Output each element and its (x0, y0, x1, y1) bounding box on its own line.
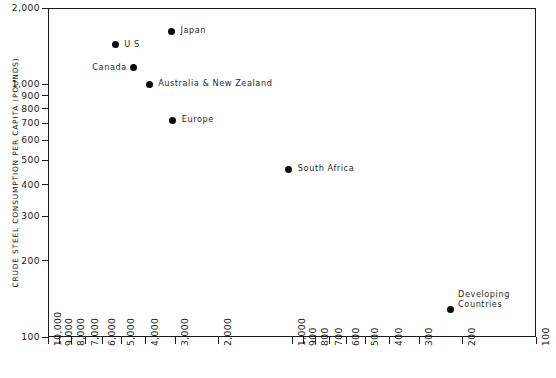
y-axis-tick-mark (42, 216, 49, 217)
x-axis-tick-mark (315, 337, 316, 344)
x-axis-tick-mark (419, 337, 420, 344)
x-axis-tick-label: 400 (393, 327, 404, 346)
data-point-label: Japan (180, 26, 206, 36)
x-axis-tick-label: 7,000 (89, 318, 100, 346)
data-point-label: Developing Countries (458, 291, 510, 310)
x-axis-tick-mark (59, 337, 60, 344)
x-axis-tick-mark (48, 337, 49, 344)
x-axis-tick-label: 5,000 (125, 318, 136, 346)
x-axis-tick-mark (218, 337, 219, 344)
y-axis-tick-label: 400 (0, 179, 40, 190)
x-axis-tick-mark (303, 337, 304, 344)
x-axis-tick-label: 3,000 (179, 318, 190, 346)
x-axis-tick-mark (346, 337, 347, 344)
x-axis-tick-mark (85, 337, 86, 344)
data-point-label: Canada (92, 63, 126, 73)
y-axis-tick-mark (42, 108, 49, 109)
x-axis-tick-mark (536, 337, 537, 344)
y-axis-tick-mark (42, 84, 49, 85)
x-axis-tick-mark (329, 337, 330, 344)
y-axis-tick-label: 100 (0, 331, 40, 342)
y-axis-tick-mark (42, 260, 49, 261)
y-axis-tick-label: 300 (0, 210, 40, 221)
y-axis-tick-label: 200 (0, 255, 40, 266)
x-axis-tick-mark (462, 337, 463, 344)
y-axis-tick-mark (42, 8, 49, 9)
x-axis-tick-label: 300 (423, 327, 434, 346)
y-axis-tick-mark (42, 140, 49, 141)
y-axis-tick-label: 500 (0, 154, 40, 165)
y-axis-title: CRUDE STEEL CONSUMPTION PER CAPITA (POUN… (11, 13, 20, 333)
x-axis-tick-label: 10,000 (52, 311, 63, 346)
x-axis-tick-label: 2,000 (222, 318, 233, 346)
x-axis-tick-mark (145, 337, 146, 344)
x-axis-tick-label: 1,000 (296, 318, 307, 346)
x-axis-tick-label: 500 (369, 327, 380, 346)
y-axis-tick-label: 900 (0, 90, 40, 101)
chart-container: CRUDE STEEL CONSUMPTION PER CAPITA (POUN… (0, 0, 556, 378)
y-axis-tick-label: 1,000 (0, 78, 40, 89)
data-point-label: Australia & New Zealand (158, 79, 272, 89)
y-axis-tick-mark (42, 184, 49, 185)
plot-area (48, 8, 536, 337)
data-point (169, 117, 176, 124)
data-point (447, 306, 454, 313)
y-axis-tick-mark (42, 95, 49, 96)
x-axis-tick-mark (175, 337, 176, 344)
x-axis-tick-label: 200 (466, 327, 477, 346)
data-point (146, 81, 153, 88)
x-axis-tick-label: 700 (333, 327, 344, 346)
x-axis-tick-mark (102, 337, 103, 344)
y-axis-tick-label: 600 (0, 134, 40, 145)
data-point (168, 28, 175, 35)
y-axis-tick-label: 800 (0, 103, 40, 114)
y-axis-tick-mark (42, 123, 49, 124)
x-axis-tick-label: 6,000 (106, 318, 117, 346)
x-axis-tick-mark (365, 337, 366, 344)
x-axis-tick-label: 100 (540, 327, 551, 346)
data-point-label: U S (124, 40, 139, 50)
x-axis-tick-mark (389, 337, 390, 344)
x-axis-tick-label: 600 (350, 327, 361, 346)
data-point-label: Europe (182, 115, 214, 125)
x-axis-tick-mark (71, 337, 72, 344)
x-axis-tick-label: 4,000 (149, 318, 160, 346)
y-axis-tick-label: 700 (0, 117, 40, 128)
x-axis-tick-mark (121, 337, 122, 344)
data-point-label: South Africa (298, 165, 354, 175)
y-axis-tick-mark (42, 160, 49, 161)
x-axis-tick-mark (292, 337, 293, 344)
y-axis-tick-label: 2,000 (0, 2, 40, 13)
